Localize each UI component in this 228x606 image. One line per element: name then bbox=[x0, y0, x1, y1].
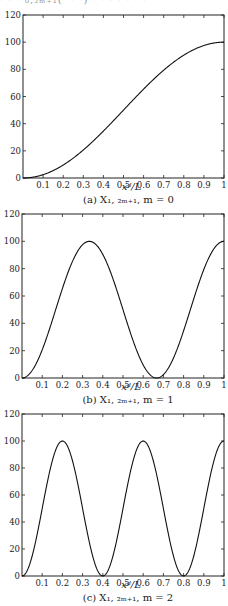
x-tick-label: 0.9 bbox=[197, 180, 211, 190]
x-tick-label: 0.3 bbox=[77, 180, 91, 190]
x-tick-label: 0.2 bbox=[56, 180, 70, 190]
plot-frame-1 bbox=[22, 214, 224, 378]
y-tick-label: 0 bbox=[16, 173, 21, 183]
subfigure-caption: (b) X₁, ₂ₘ₊₁, m = 1 bbox=[82, 394, 173, 405]
y-tick-label: 120 bbox=[5, 10, 21, 20]
series-line-m=2 bbox=[22, 441, 224, 576]
y-tick-label: 20 bbox=[10, 146, 21, 156]
plot-frame-0 bbox=[23, 15, 224, 178]
x-tick-label: 0.8 bbox=[177, 578, 191, 588]
y-tick-label: 120 bbox=[4, 209, 20, 219]
y-tick-label: 100 bbox=[4, 236, 20, 246]
y-tick-label: 40 bbox=[9, 517, 20, 527]
y-tick-label: 100 bbox=[5, 37, 21, 47]
x-tick-label: 0.3 bbox=[76, 380, 90, 390]
x-tick-label: 0.7 bbox=[157, 380, 171, 390]
x-tick-label: 0.4 bbox=[97, 180, 111, 190]
y-tick-label: 60 bbox=[10, 92, 21, 102]
y-tick-label: 0 bbox=[15, 571, 20, 581]
x-tick-label: 1 bbox=[221, 380, 226, 390]
x-tick-label: 0.3 bbox=[76, 578, 90, 588]
y-tick-label: 80 bbox=[9, 463, 20, 473]
x-tick-label: 0.1 bbox=[36, 180, 50, 190]
y-tick-label: 40 bbox=[9, 318, 20, 328]
figure: 0.10.20.30.40.50.60.70.80.91020406080100… bbox=[0, 0, 228, 606]
x-tick-label: 0.2 bbox=[56, 380, 70, 390]
y-tick-label: 40 bbox=[10, 119, 21, 129]
x-tick-label: 0.7 bbox=[157, 578, 171, 588]
subfigure-caption: (c) X₁, ₂ₘ₊₁, m = 2 bbox=[83, 592, 173, 603]
x-tick-label: 0.4 bbox=[96, 380, 110, 390]
y-tick-label: 20 bbox=[9, 544, 20, 554]
series-line-m=1 bbox=[22, 241, 224, 378]
x-tick-label: 1 bbox=[221, 578, 226, 588]
x-tick-label: 0.7 bbox=[157, 180, 171, 190]
y-tick-label: 0 bbox=[15, 373, 20, 383]
x-tick-label: 0.9 bbox=[197, 578, 211, 588]
x-tick-label: 0.1 bbox=[35, 380, 49, 390]
x-tick-label: 0.1 bbox=[35, 578, 49, 588]
x-tick-label: 0.8 bbox=[177, 380, 191, 390]
y-tick-label: 100 bbox=[4, 436, 20, 446]
plot-frame-2 bbox=[22, 414, 224, 576]
x-axis-label: xᵈ/L bbox=[121, 579, 141, 590]
y-tick-label: 80 bbox=[9, 264, 20, 274]
y-tick-label: 60 bbox=[9, 490, 20, 500]
x-tick-label: 0.2 bbox=[56, 578, 70, 588]
y-tick-label: 80 bbox=[10, 64, 21, 74]
subfigure-caption: (a) X₁, ₂ₘ₊₁, m = 0 bbox=[83, 194, 174, 205]
x-tick-label: 0.8 bbox=[177, 180, 191, 190]
x-axis-label: xᵈ/L bbox=[122, 181, 142, 192]
y-tick-label: 120 bbox=[4, 409, 20, 419]
series-line-m=0 bbox=[23, 42, 224, 178]
y-tick-label: 20 bbox=[9, 346, 20, 356]
y-tick-label: 60 bbox=[9, 291, 20, 301]
x-tick-label: 0.9 bbox=[197, 380, 211, 390]
x-tick-label: 1 bbox=[221, 180, 226, 190]
x-tick-label: 0.4 bbox=[96, 578, 110, 588]
x-axis-label: xᵈ/L bbox=[121, 381, 141, 392]
